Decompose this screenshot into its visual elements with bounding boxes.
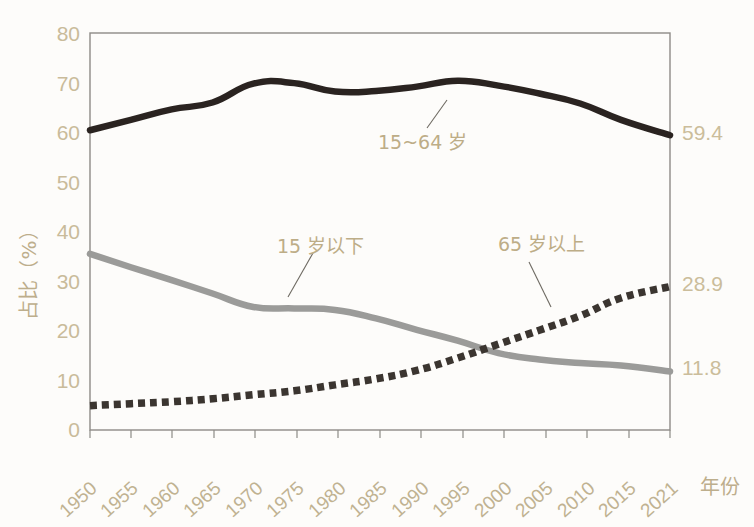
x-axis-title: 年份: [700, 475, 740, 499]
x-tick-1995: 1995: [428, 477, 473, 521]
series-label-over-65: 65 岁以上: [498, 233, 585, 255]
series-line-over-65: [90, 287, 670, 406]
y-tick-20: 20: [57, 319, 80, 342]
series-label-under-15: 15 岁以下: [277, 235, 364, 257]
series-label-15-64: 15~64 岁: [378, 131, 467, 153]
x-tick-2000: 2000: [470, 477, 515, 521]
leader-line-15-64: [427, 100, 447, 128]
x-tick-2010: 2010: [553, 477, 598, 521]
chart-canvas: 80 70 60 50 40 30 20 10 0 占比（%）: [0, 0, 754, 527]
y-tick-60: 60: [57, 121, 80, 144]
y-tick-0: 0: [68, 418, 80, 441]
x-tick-1960: 1960: [138, 477, 183, 521]
leader-line-under-15: [288, 253, 313, 297]
series-line-15-to-64: [90, 81, 670, 136]
y-tick-50: 50: [57, 171, 80, 194]
y-tick-80: 80: [57, 22, 80, 45]
y-tick-30: 30: [57, 270, 80, 293]
x-tick-1980: 1980: [304, 477, 349, 521]
x-tick-1985: 1985: [345, 477, 390, 521]
x-axis-tick-marks: [90, 430, 670, 438]
x-tick-2005: 2005: [511, 477, 556, 521]
leader-line-over-65: [529, 262, 551, 307]
population-age-structure-chart: 80 70 60 50 40 30 20 10 0 占比（%）: [0, 0, 754, 527]
x-tick-1955: 1955: [96, 477, 141, 521]
y-axis-title: 占比（%）: [17, 220, 41, 319]
x-tick-1990: 1990: [387, 477, 432, 521]
x-tick-1975: 1975: [262, 477, 307, 521]
x-tick-1965: 1965: [179, 477, 224, 521]
y-tick-40: 40: [57, 220, 80, 243]
x-axis-tick-labels: 1950 1955 1960 1965 1970 1975 1980 1985 …: [55, 477, 681, 521]
y-axis-tick-labels: 80 70 60 50 40 30 20 10 0: [57, 22, 80, 441]
x-tick-1970: 1970: [221, 477, 266, 521]
x-tick-1950: 1950: [55, 477, 100, 521]
x-tick-2021: 2021: [636, 477, 681, 521]
end-value-15-64: 59.4: [682, 121, 723, 144]
end-value-under-15: 11.8: [682, 356, 721, 379]
x-tick-2015: 2015: [594, 477, 639, 521]
end-value-over-65: 28.9: [682, 272, 723, 295]
y-tick-70: 70: [57, 72, 80, 95]
y-tick-10: 10: [57, 369, 80, 392]
